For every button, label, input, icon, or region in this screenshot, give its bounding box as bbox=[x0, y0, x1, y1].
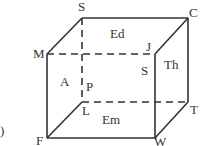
face-label-s: S bbox=[141, 64, 148, 77]
vertex-label-t: T bbox=[190, 103, 198, 116]
edge-l-f bbox=[47, 102, 82, 138]
vertex-label-p: P bbox=[86, 80, 93, 93]
vertex-label-j: J bbox=[146, 40, 151, 53]
cube-edges bbox=[0, 0, 201, 146]
edge-c-j bbox=[155, 18, 188, 54]
partial-paren-label: ) bbox=[0, 124, 4, 137]
vertex-label-l: L bbox=[82, 104, 90, 117]
face-label-th: Th bbox=[164, 58, 178, 71]
cube-diagram: S C M J P L T F W Ed A S Th Em ) bbox=[0, 0, 201, 146]
vertex-label-m: M bbox=[33, 47, 45, 60]
edge-s-m bbox=[47, 18, 82, 54]
vertex-label-w: W bbox=[154, 135, 166, 146]
face-label-ed: Ed bbox=[110, 27, 124, 40]
vertex-label-s: S bbox=[78, 0, 85, 13]
vertex-label-f: F bbox=[36, 134, 43, 146]
face-label-em: Em bbox=[102, 113, 120, 126]
face-label-a: A bbox=[60, 75, 69, 88]
edge-t-w bbox=[155, 102, 188, 138]
vertex-label-c: C bbox=[189, 6, 198, 19]
